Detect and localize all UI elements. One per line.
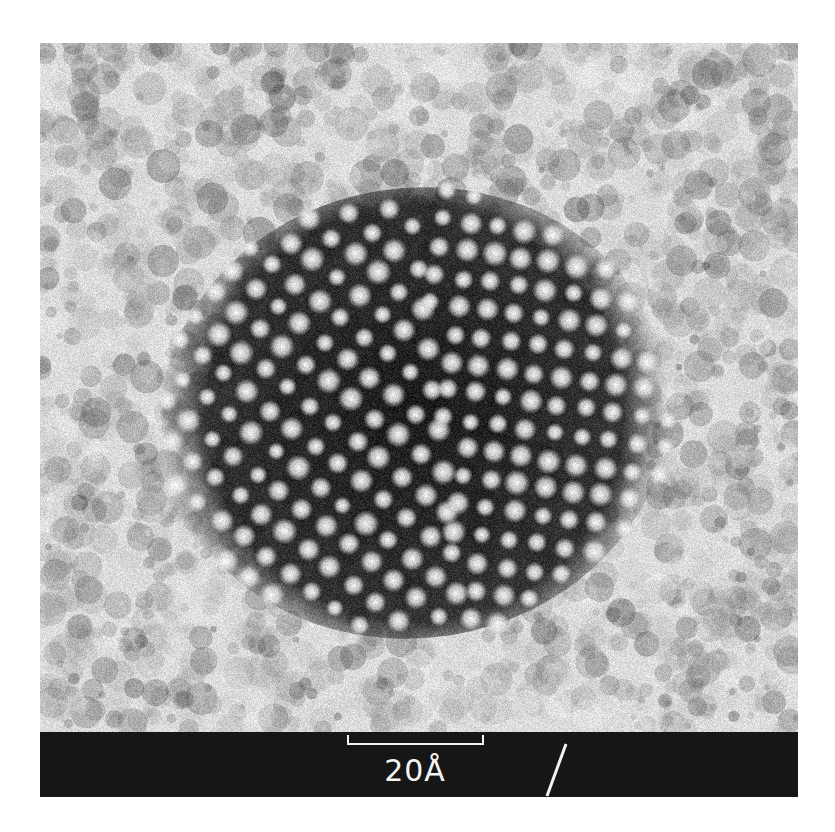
scale-label: 20Å (340, 754, 490, 788)
lattice-image (40, 43, 798, 732)
micrograph-image: 20Å (40, 43, 798, 797)
slash-mark-icon (540, 742, 580, 797)
scale-bar (347, 735, 484, 745)
scale-band: 20Å (40, 732, 798, 797)
